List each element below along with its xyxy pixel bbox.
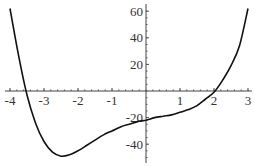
y-tick-label: 40 [130,30,143,45]
y-tick-label: -40 [126,137,143,152]
tick-labels: -4-3-2-1123604020-20-40 [5,4,252,152]
x-tick-label: -4 [5,93,16,108]
x-tick-label: -2 [73,93,84,108]
function-plot: -4-3-2-1123604020-20-40 [0,0,255,166]
y-tick-label: 20 [130,57,143,72]
function-curve [10,9,248,157]
y-tick-label: 60 [130,4,143,19]
x-tick-label: -3 [39,93,50,108]
x-tick-label: -1 [107,93,118,108]
minor-ticks [10,11,248,157]
x-tick-label: 1 [177,93,184,108]
x-tick-label: 3 [245,93,252,108]
